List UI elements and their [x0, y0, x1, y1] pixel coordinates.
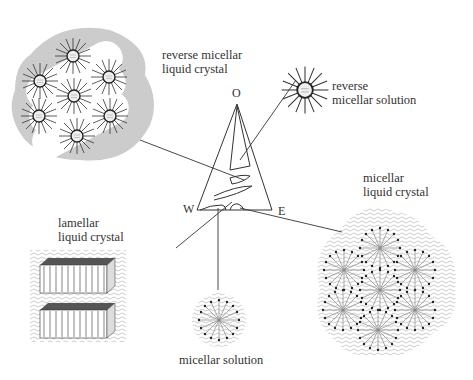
label-line: micellar solution [179, 353, 263, 367]
reverse-micellar-lc-illustration [12, 28, 154, 165]
label-line: reverse micellar [162, 48, 242, 62]
ternary-triangle [197, 104, 272, 210]
label-line: micellar [363, 171, 429, 185]
connector-lines [140, 80, 342, 290]
label-reverse-micellar-lc: reverse micellar liquid crystal [162, 48, 242, 76]
label-line: liquid crystal [58, 230, 124, 244]
lamellar-lc-illustration [30, 250, 126, 342]
label-line: reverse [332, 79, 416, 93]
label-line: liquid crystal [363, 185, 429, 199]
micellar-lc-illustration [317, 208, 456, 357]
label-line: liquid crystal [162, 62, 242, 76]
reverse-micellar-solution-illustration [282, 67, 329, 114]
label-reverse-micellar-solution: reverse micellar solution [332, 79, 416, 107]
label-line: lamellar [58, 216, 124, 230]
label-line: micellar solution [332, 93, 416, 107]
label-lamellar-lc: lamellar liquid crystal [58, 216, 124, 244]
vertex-label-oil: O [232, 86, 241, 101]
vertex-label-water: W [183, 202, 194, 217]
micellar-solution-illustration [192, 293, 246, 347]
vertex-label-emulsifier: E [278, 204, 285, 219]
label-micellar-lc: micellar liquid crystal [363, 171, 429, 199]
label-micellar-solution: micellar solution [179, 353, 263, 367]
